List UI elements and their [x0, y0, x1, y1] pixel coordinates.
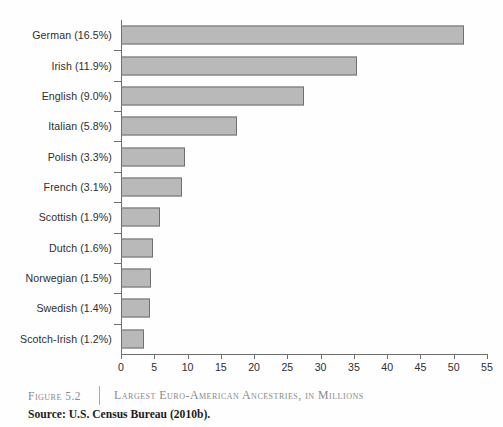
bar-row: Dutch (1.6%): [0, 233, 503, 263]
bar-row: Scotch-Irish (1.2%): [0, 324, 503, 354]
bar-row: Norwegian (1.5%): [0, 263, 503, 293]
bar: [121, 86, 304, 105]
bar-rows-container: German (16.5%)Irish (11.9%)English (9.0%…: [0, 20, 503, 354]
bar: [121, 238, 153, 257]
x-axis-tick-label: 0: [118, 361, 124, 373]
category-label: Irish (11.9%): [0, 60, 112, 72]
x-axis-tick: [188, 354, 189, 359]
bar-container: [121, 238, 153, 257]
bar-container: [121, 56, 357, 75]
x-axis-tick-label: 50: [448, 361, 460, 373]
caption-divider: [99, 386, 100, 405]
bar-container: [121, 177, 182, 196]
x-axis-tick-label: 5: [151, 361, 157, 373]
figure-title: Largest Euro-American Ancestries, in Mil…: [114, 388, 364, 403]
bar: [121, 147, 185, 166]
bar-row: English (9.0%): [0, 81, 503, 111]
bar-row: French (3.1%): [0, 172, 503, 202]
bar-row: Irish (11.9%): [0, 50, 503, 80]
y-axis-tick: [114, 111, 121, 112]
category-label: Norwegian (1.5%): [0, 272, 112, 284]
x-axis-tick: [321, 354, 322, 359]
x-axis-tick-label: 35: [348, 361, 360, 373]
bar-container: [121, 269, 151, 288]
bar: [121, 177, 182, 196]
y-axis-tick: [114, 263, 121, 264]
bar: [121, 56, 357, 75]
x-axis-tick: [287, 354, 288, 359]
bar: [121, 269, 151, 288]
x-axis-tick: [154, 354, 155, 359]
category-label: Polish (3.3%): [0, 151, 112, 163]
x-axis-tick-label: 30: [315, 361, 327, 373]
figure-page: German (16.5%)Irish (11.9%)English (9.0%…: [0, 0, 503, 427]
bar: [121, 117, 237, 136]
x-axis-tick: [221, 354, 222, 359]
category-label: Italian (5.8%): [0, 120, 112, 132]
x-axis-tick: [354, 354, 355, 359]
x-axis-tick-label: 10: [182, 361, 194, 373]
x-axis-tick-label: 40: [381, 361, 393, 373]
y-axis-tick: [114, 202, 121, 203]
bar-row: Scottish (1.9%): [0, 202, 503, 232]
bar: [121, 329, 144, 348]
x-axis-tick-label: 45: [415, 361, 427, 373]
x-axis-tick: [487, 354, 488, 359]
y-axis-tick: [114, 233, 121, 234]
category-label: Scotch-Irish (1.2%): [0, 333, 112, 345]
bar-container: [121, 299, 150, 318]
y-axis-tick: [114, 172, 121, 173]
bar-container: [121, 26, 464, 45]
figure-number: Figure 5.2: [28, 390, 81, 402]
x-axis-tick: [387, 354, 388, 359]
x-axis-tick-label: 55: [481, 361, 493, 373]
bar-row: Italian (5.8%): [0, 111, 503, 141]
x-axis-tick-label: 20: [248, 361, 260, 373]
bar-container: [121, 147, 185, 166]
x-axis-tick: [254, 354, 255, 359]
bar-container: [121, 329, 144, 348]
bar-container: [121, 117, 237, 136]
x-axis-tick: [121, 354, 122, 359]
bar-container: [121, 208, 160, 227]
figure-caption: Figure 5.2 Largest Euro-American Ancestr…: [28, 386, 364, 405]
x-axis-line: [121, 354, 487, 355]
category-label: Dutch (1.6%): [0, 242, 112, 254]
x-axis-tick: [420, 354, 421, 359]
y-axis-tick: [114, 141, 121, 142]
y-axis-tick: [114, 324, 121, 325]
x-axis-tick-label: 15: [215, 361, 227, 373]
bar: [121, 208, 160, 227]
bar-container: [121, 86, 304, 105]
bar-row: German (16.5%): [0, 20, 503, 50]
bar-chart: German (16.5%)Irish (11.9%)English (9.0%…: [0, 0, 503, 378]
y-axis-tick: [114, 293, 121, 294]
category-label: Scottish (1.9%): [0, 211, 112, 223]
bar: [121, 299, 150, 318]
category-label: Swedish (1.4%): [0, 302, 112, 314]
bar-row: Swedish (1.4%): [0, 293, 503, 323]
category-label: English (9.0%): [0, 90, 112, 102]
x-axis-tick-label: 25: [281, 361, 293, 373]
source-note: Source: U.S. Census Bureau (2010b).: [28, 408, 210, 421]
bar-row: Polish (3.3%): [0, 141, 503, 171]
x-axis-tick: [454, 354, 455, 359]
bar: [121, 26, 464, 45]
y-axis-tick: [114, 50, 121, 51]
y-axis-tick: [114, 81, 121, 82]
category-label: German (16.5%): [0, 29, 112, 41]
category-label: French (3.1%): [0, 181, 112, 193]
